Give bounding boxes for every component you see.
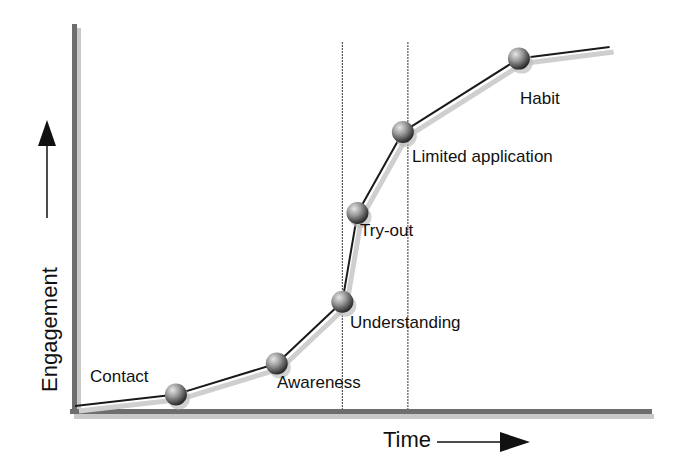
stage-label-limited-application: Limited application [412, 147, 553, 166]
stage-node-limited-application [392, 121, 414, 143]
stage-node-awareness [266, 353, 288, 375]
arrow-up-icon [38, 120, 56, 146]
stage-node-contact [165, 383, 187, 405]
stage-label-understanding: Understanding [350, 313, 461, 332]
stage-node-understanding [331, 291, 353, 313]
x-axis-shadow [74, 414, 654, 419]
x-axis-arrow [437, 432, 530, 452]
stage-label-habit: Habit [520, 89, 560, 108]
stage-node-habit [508, 48, 530, 70]
x-axis [70, 409, 652, 414]
stage-nodes [165, 48, 533, 410]
x-axis-label: Time [383, 427, 431, 452]
stage-label-awareness: Awareness [277, 373, 361, 392]
y-axis-arrow [38, 120, 56, 218]
y-axis-label: Engagement [37, 267, 62, 392]
stage-label-contact: Contact [90, 367, 149, 386]
adoption-curve-diagram: Contact Awareness Understanding Try-out … [0, 0, 683, 475]
stage-label-try-out: Try-out [360, 221, 413, 240]
y-axis [72, 24, 77, 414]
arrow-right-icon [500, 432, 530, 452]
